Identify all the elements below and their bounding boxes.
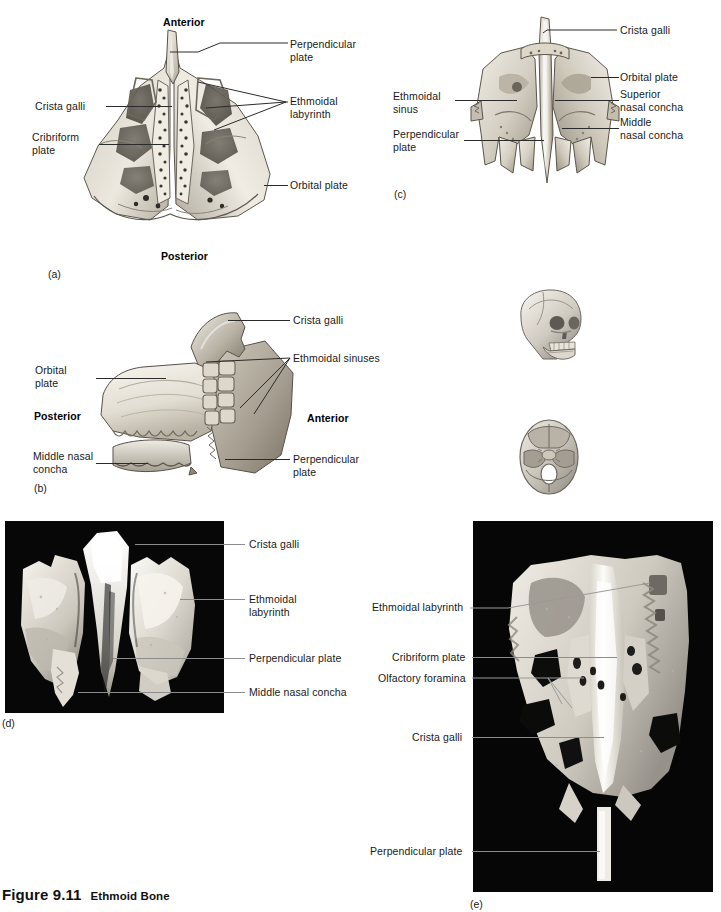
- panel-b-id: (b): [34, 482, 47, 494]
- panel-c-crista-galli-leader: [543, 25, 619, 35]
- panel-c-superior-nasal-concha-leader: [555, 100, 619, 101]
- panel-b-middle-nasal-concha-leader: [96, 463, 148, 464]
- panel-d-ethmoidal-labyrinth-label: Ethmoidal labyrinth: [249, 593, 297, 618]
- panel-c-ethmoidal-sinus-leader: [455, 100, 517, 101]
- panel-c-superior-nasal-concha-label: Superior nasal concha: [620, 88, 683, 113]
- panel-d-middle-nasal-concha-leader: [78, 692, 245, 693]
- panel-d-middle-nasal-concha-label: Middle nasal concha: [249, 686, 347, 699]
- panel-c-middle-nasal-concha-label: Middle nasal concha: [620, 116, 683, 141]
- panel-d-ethmoidal-labyrinth-leader: [180, 599, 245, 600]
- panel-b-ethmoidal-sinuses-label: Ethmoidal sinuses: [293, 352, 380, 365]
- panel-a-perpendicular-plate-label: Perpendicular plate: [290, 38, 356, 63]
- figure-caption: Figure 9.11Ethmoid Bone: [2, 886, 170, 904]
- figure-number: Figure 9.11: [2, 886, 81, 903]
- panel-c-middle-nasal-concha-leader: [562, 128, 619, 129]
- panel-c-perpendicular-plate-leader: [464, 140, 544, 141]
- panel-b-perpendicular-plate-label: Perpendicular plate: [293, 453, 359, 478]
- panel-d-id: (d): [2, 717, 15, 729]
- panel-e-perpendicular-plate-leader: [472, 851, 600, 852]
- panel-a-posterior-label: Posterior: [161, 250, 208, 263]
- panel-b-anterior-label: Anterior: [307, 412, 349, 425]
- panel-b: Crista galli Ethmoidal sinuses Anterior …: [0, 290, 390, 510]
- panel-a-cribriform-plate-leader: [99, 144, 169, 145]
- panel-b-crista-galli-leader: [228, 320, 290, 321]
- panel-e-olfactory-foramina-label: Olfactory foramina: [378, 672, 466, 685]
- panel-e-cribriform-plate-leader: [472, 657, 617, 658]
- panel-b-orbital-plate-label: Orbital plate: [35, 364, 67, 389]
- panel-c-id: (c): [394, 188, 406, 200]
- panel-e-ethmoidal-labyrinth-leader: [470, 577, 652, 617]
- panel-c-orbital-plate-label: Orbital plate: [620, 71, 678, 84]
- cranial-floor-superior-icon: [518, 418, 580, 496]
- panel-c-ethmoid-illustration: [455, 15, 635, 195]
- panel-e: Ethmoidal labyrinth Cribriform plate Olf…: [360, 510, 721, 912]
- panel-b-orbital-plate-leader: [96, 378, 166, 379]
- panel-c-crista-galli-label: Crista galli: [620, 24, 670, 37]
- panel-d-perpendicular-plate-leader: [113, 658, 245, 659]
- panel-b-middle-nasal-concha-label: Middle nasal concha: [33, 450, 93, 475]
- panel-a-orbital-plate-label: Orbital plate: [290, 179, 348, 192]
- panel-d-perpendicular-plate-label: Perpendicular plate: [249, 652, 341, 665]
- panel-e-ethmoidal-labyrinth-label: Ethmoidal labyrinth: [372, 601, 463, 614]
- panel-e-olfactory-foramina-leader: [472, 670, 597, 712]
- panel-d-crista-galli-leader: [135, 544, 245, 545]
- panel-a-ethmoidal-labyrinth-label: Ethmoidal labyrinth: [290, 95, 338, 120]
- figure-title: Ethmoid Bone: [90, 890, 169, 902]
- panel-a-ethmoidal-labyrinth-leader: [196, 78, 290, 134]
- panel-a-cribriform-plate-label: Cribriform plate: [32, 131, 79, 156]
- panel-c-orbital-plate-leader: [591, 77, 619, 78]
- figure-page: Anterior Posterior: [0, 0, 721, 912]
- panel-d-crista-galli-label: Crista galli: [249, 538, 299, 551]
- panel-a-anterior-label: Anterior: [163, 16, 205, 29]
- panel-b-ethmoidal-sinuses-leader: [198, 352, 292, 418]
- panel-e-crista-galli-label: Crista galli: [412, 731, 462, 744]
- panel-a-perpendicular-plate-leader: [170, 38, 290, 54]
- panel-b-posterior-label: Posterior: [34, 410, 81, 423]
- panel-b-crista-galli-label: Crista galli: [293, 314, 343, 327]
- panel-c: Crista galli Orbital plate Superior nasa…: [380, 0, 721, 230]
- panel-a-crista-galli-leader: [106, 106, 172, 107]
- panel-d-photograph: [5, 521, 224, 713]
- panel-a: Anterior Posterior: [0, 0, 380, 290]
- panel-e-cribriform-plate-label: Cribriform plate: [392, 651, 465, 664]
- skull-lateral-oblique-icon: [513, 287, 585, 371]
- panel-c-perpendicular-plate-label: Perpendicular plate: [393, 128, 459, 153]
- panel-e-id: (e): [470, 898, 483, 910]
- panel-c-ethmoidal-sinus-label: Ethmoidal sinus: [393, 90, 441, 115]
- panel-a-orbital-plate-leader: [264, 185, 288, 186]
- panel-e-perpendicular-plate-label: Perpendicular plate: [370, 845, 462, 858]
- panel-b-perpendicular-plate-leader: [225, 459, 290, 460]
- panel-d: Crista galli Ethmoidal labyrinth Perpend…: [0, 510, 360, 725]
- panel-a-id: (a): [48, 268, 61, 280]
- panel-e-crista-galli-leader: [472, 737, 604, 738]
- panel-a-crista-galli-label: Crista galli: [35, 100, 85, 113]
